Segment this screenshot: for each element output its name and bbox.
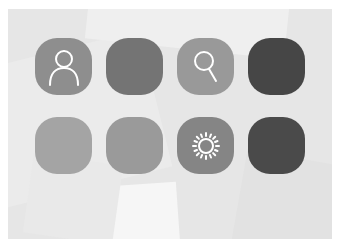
background-shape [106,182,180,239]
sun-icon [191,131,221,161]
blank-app-icon[interactable] [35,117,92,174]
user-icon [46,47,82,87]
home-screen [8,9,332,239]
blank-app-icon[interactable] [248,117,305,174]
search-app-icon[interactable] [177,38,234,95]
blank-app-icon[interactable] [106,38,163,95]
search-icon [190,49,222,85]
blank-app-icon[interactable] [248,38,305,95]
user-app-icon[interactable] [35,38,92,95]
blank-app-icon[interactable] [106,117,163,174]
brightness-app-icon[interactable] [177,117,234,174]
